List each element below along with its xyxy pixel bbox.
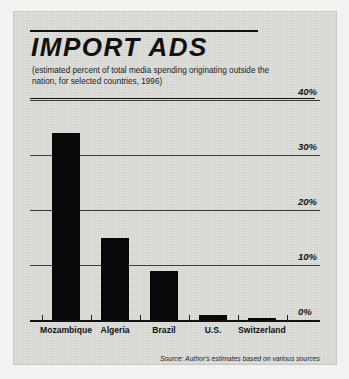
y-axis-tick-label: 40%	[298, 86, 317, 97]
chart-figure: IMPORT ADS (estimated percent of total m…	[14, 12, 336, 364]
x-axis-tick	[140, 315, 141, 321]
x-axis-category-label: Mozambique	[40, 325, 92, 335]
x-axis-tick	[189, 315, 190, 321]
y-axis-tick-label: 20%	[298, 196, 317, 207]
bar-mozambique	[52, 133, 80, 320]
bar-algeria	[101, 238, 129, 321]
x-axis-tick	[42, 315, 43, 321]
y-axis-tick-label: 10%	[298, 251, 317, 262]
bar-u-s	[199, 315, 227, 321]
x-axis-tick	[91, 315, 92, 321]
scanned-page-background: IMPORT ADS (estimated percent of total m…	[0, 0, 349, 379]
x-axis-category-label: U.S.	[205, 325, 222, 335]
x-axis-tick	[238, 315, 239, 321]
chart-subtitle: (estimated percent of total media spendi…	[32, 65, 290, 87]
x-axis-baseline	[30, 320, 320, 322]
y-axis-tick-label: 30%	[298, 141, 317, 152]
bar-switzerland	[248, 318, 276, 320]
x-axis-category-label: Brazil	[152, 325, 175, 335]
chart-source-note: Source: Author's estimates based on vari…	[160, 355, 320, 362]
chart-title: IMPORT ADS	[31, 34, 208, 60]
gridline-40%	[30, 100, 320, 101]
bar-brazil	[150, 271, 178, 321]
x-axis-category-label: Switzerland	[238, 325, 286, 335]
x-axis-category-label: Algeria	[100, 325, 129, 335]
y-axis-tick-label: 0%	[298, 306, 312, 317]
x-axis-tick	[287, 315, 288, 321]
